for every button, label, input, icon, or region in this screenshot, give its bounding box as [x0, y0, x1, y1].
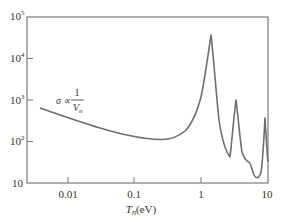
y-axis-labels: 105 104 103 102 10: [10, 9, 25, 189]
y-label-1e5: 105: [10, 9, 25, 22]
annotation-sigma: σ ∝: [56, 95, 71, 106]
y-label-10: 10: [12, 177, 24, 189]
y-label-1e3: 103: [10, 93, 25, 106]
sigma-annotation: σ ∝ 1 Vn: [56, 87, 84, 115]
x-axis-ticks: [68, 177, 201, 183]
annotation-numerator: 1: [75, 87, 80, 98]
x-label-10: 10: [262, 188, 274, 200]
x-label-1: 1: [198, 188, 204, 200]
y-label-1e4: 104: [10, 51, 25, 64]
annotation-denominator: Vn: [73, 102, 83, 115]
x-axis-labels: 0.01 0.1 1 10: [58, 188, 273, 200]
x-axis-title: Tn(eV): [126, 203, 157, 217]
y-axis-ticks: [27, 59, 33, 142]
cross-section-chart: 105 104 103 102 10 0.01 0.1 1 10 Tn(eV) …: [0, 0, 283, 220]
y-label-1e2: 102: [10, 134, 25, 147]
x-label-0.01: 0.01: [58, 188, 77, 200]
x-label-0.1: 0.1: [127, 188, 141, 200]
